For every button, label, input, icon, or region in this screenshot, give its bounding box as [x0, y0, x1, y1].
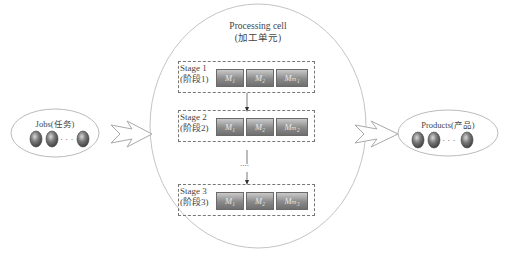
jobs-ellipsis: · · ·: [60, 134, 74, 144]
machine-s1-m2: M₂: [246, 69, 274, 87]
stage-ellipsis: ....: [240, 158, 249, 168]
output-arrow-icon: [355, 121, 398, 147]
products-label: Products(产品): [408, 118, 488, 130]
stage-2-label: Stage 2(阶段2): [180, 112, 209, 134]
stage-1-label: Stage 1(阶段1): [180, 63, 209, 85]
machine-s2-m2: M₂: [246, 118, 274, 136]
jobs-label: Jobs(任务): [25, 117, 85, 129]
products-ellipsis: · · ·: [442, 135, 456, 145]
machine-s3-m2: M₂: [246, 192, 274, 210]
machine-s2-mm2: Mₘ₂: [276, 118, 308, 136]
products-ellipse: [398, 110, 498, 156]
stage-3-label: Stage 3(阶段3): [180, 186, 209, 208]
machine-s1-mm1: Mₘ₁: [276, 69, 308, 87]
input-arrow-icon: [111, 121, 152, 147]
cell-title: Processing cell (加工单元): [198, 20, 318, 44]
machine-s3-mm3: Mₘ₃: [276, 192, 308, 210]
machine-s3-m1: M₁: [216, 192, 244, 210]
machine-s2-m1: M₁: [216, 118, 244, 136]
machine-s1-m1: M₁: [216, 69, 244, 87]
